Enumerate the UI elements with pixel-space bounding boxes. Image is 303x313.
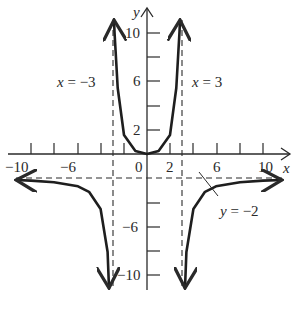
curve-left-branch <box>16 180 109 288</box>
function-graph: y x −10 −6 0 2 6 10 10 6 2 −6 −10 x = −3… <box>0 0 303 313</box>
asymptote-label-right: x = 3 <box>191 74 222 90</box>
x-tick-label-neg6: −6 <box>60 159 76 175</box>
y-tick-label-2: 2 <box>133 122 141 138</box>
x-axis-label: x <box>282 160 290 176</box>
asymptote-label-pointer <box>199 172 218 196</box>
asymptote-label-horizontal: y = −2 <box>218 203 259 219</box>
y-tick-label-10: 10 <box>125 25 140 41</box>
x-tick-label-10: 10 <box>258 159 273 175</box>
x-tick-label-6: 6 <box>213 159 221 175</box>
x-tick-label-2: 2 <box>166 159 174 175</box>
y-axis-label: y <box>131 4 140 20</box>
x-tick-label-0: 0 <box>135 159 143 175</box>
x-tick-label-neg10: −10 <box>5 159 28 175</box>
y-tick-label-neg10: −10 <box>117 267 140 283</box>
y-tick-label-6: 6 <box>133 73 141 89</box>
y-tick-label-neg6: −6 <box>122 219 138 235</box>
asymptote-label-left: x = −3 <box>56 74 96 90</box>
curve-right-branch <box>185 180 282 288</box>
